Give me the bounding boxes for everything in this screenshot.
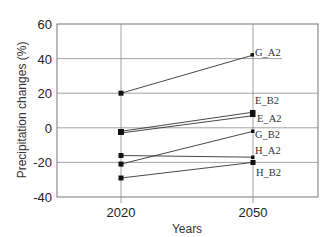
marker-g-b2-2050 — [251, 130, 255, 134]
marker-g-b2-2020 — [119, 162, 124, 167]
line-e-a2 — [121, 116, 253, 133]
series-lines — [121, 55, 253, 178]
x-axis-label: Years — [172, 222, 202, 236]
label-h-b2: H_B2 — [256, 167, 281, 178]
ytick-neg40: -40 — [33, 190, 52, 205]
ytick-0: 0 — [45, 121, 52, 136]
precipitation-chart: 60 40 20 0 -20 -40 2020 2050 Years Preci… — [0, 0, 331, 237]
label-h-a2: H_A2 — [255, 145, 281, 156]
y-tick-labels: 60 40 20 0 -20 -40 — [33, 17, 52, 205]
marker-e-2020 — [118, 129, 124, 135]
xtick-2020: 2020 — [107, 205, 136, 220]
label-g-a2: G_A2 — [255, 47, 281, 58]
xtick-2050: 2050 — [239, 205, 268, 220]
line-h-a2 — [121, 156, 253, 158]
ytick-40: 40 — [38, 52, 52, 67]
label-e-a2: E_A2 — [257, 113, 282, 124]
y-axis-label: Precipitation changes (%) — [15, 42, 29, 179]
marker-g-a2-2020 — [119, 91, 124, 96]
marker-h-b2-2020 — [119, 176, 124, 181]
line-g-a2 — [121, 55, 253, 93]
ytick-neg20: -20 — [33, 155, 52, 170]
marker-h-a2-2020 — [119, 153, 124, 158]
label-e-b2: E_B2 — [255, 95, 279, 106]
line-g-b2 — [121, 131, 253, 164]
series-labels: G_A2 E_B2 E_A2 G_B2 H_A2 H_B2 — [255, 47, 282, 178]
ytick-60: 60 — [38, 17, 52, 32]
marker-e-2050 — [250, 110, 256, 117]
ytick-20: 20 — [38, 86, 52, 101]
marker-h-a2-2050 — [251, 156, 255, 160]
label-g-b2: G_B2 — [255, 129, 280, 140]
marker-g-a2-2050 — [251, 53, 255, 57]
line-e-b2 — [121, 112, 253, 131]
line-h-b2 — [121, 162, 253, 178]
marker-h-b2-2050 — [251, 160, 256, 165]
x-gridlines — [121, 24, 253, 203]
series-markers — [118, 53, 256, 180]
